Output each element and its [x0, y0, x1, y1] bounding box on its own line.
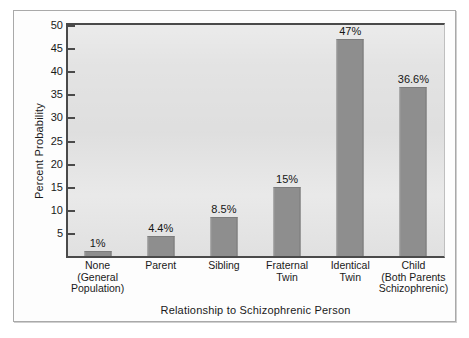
x-axis-category-line: Twin [314, 272, 386, 284]
x-axis-category-label: IdenticalTwin [314, 260, 386, 283]
x-axis-labels: None(GeneralPopulation)ParentSiblingFrat… [66, 260, 445, 306]
x-axis-category-line: Twin [251, 272, 323, 284]
x-axis-category-line: Sibling [188, 260, 260, 272]
x-axis-category-label: Parent [125, 260, 197, 272]
x-axis-category-label: Child(Both ParentsSchizophrenic) [377, 260, 449, 295]
x-axis-category-line: Population) [62, 283, 134, 295]
y-axis-tick-label: 35 [51, 89, 63, 100]
plot-area: 5101520253035404550 [66, 23, 445, 258]
y-axis-tick-label: 30 [51, 112, 63, 123]
x-axis-title: Relationship to Schizophrenic Person [66, 304, 445, 316]
y-axis-title: Percent Probability [32, 33, 46, 268]
y-axis-tick-mark [68, 210, 75, 212]
y-axis-tick-mark [68, 233, 75, 235]
x-axis-category-line: Child [377, 260, 449, 272]
y-axis-tick-mark [68, 48, 75, 50]
x-axis-category-line: Schizophrenic) [377, 283, 449, 295]
y-axis-tick-mark [68, 71, 75, 73]
y-axis-tick-label: 5 [57, 227, 63, 238]
y-axis-ticks: 5101520253035404550 [68, 25, 444, 256]
y-axis-tick-mark [68, 25, 75, 27]
y-axis-tick-mark [68, 164, 75, 166]
y-axis-tick-mark [68, 94, 75, 96]
y-axis-tick-label: 25 [51, 135, 63, 146]
y-axis-tick-mark [68, 117, 75, 119]
figure-frame: Percent Probability 5101520253035404550 … [13, 10, 456, 322]
y-axis-tick-label: 20 [51, 158, 63, 169]
y-axis-tick-label: 10 [51, 204, 63, 215]
x-axis-category-label: Sibling [188, 260, 260, 272]
x-axis-category-line: Fraternal [251, 260, 323, 272]
x-axis-category-label: FraternalTwin [251, 260, 323, 283]
y-axis-tick-label: 45 [51, 43, 63, 54]
x-axis-category-line: None [62, 260, 134, 272]
y-axis-tick-label: 15 [51, 181, 63, 192]
y-axis-title-text: Percent Probability [33, 102, 45, 198]
y-axis-tick-mark [68, 141, 75, 143]
y-axis-tick-label: 50 [51, 20, 63, 31]
x-axis-category-line: Identical [314, 260, 386, 272]
y-axis-tick-mark [68, 187, 75, 189]
y-axis-tick-label: 40 [51, 66, 63, 77]
x-axis-category-line: Parent [125, 260, 197, 272]
x-axis-category-label: None(GeneralPopulation) [62, 260, 134, 295]
